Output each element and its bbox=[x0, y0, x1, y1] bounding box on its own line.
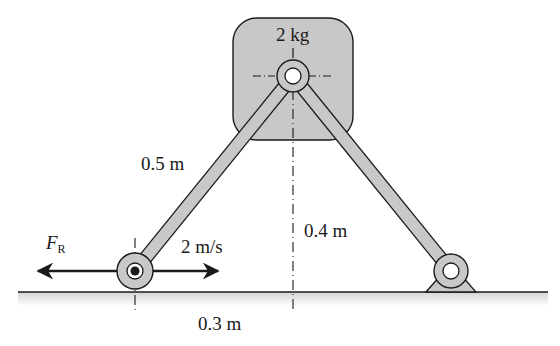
bar-length-label: 0.5 m bbox=[141, 153, 184, 175]
force-subscript: R bbox=[58, 242, 66, 256]
velocity-label: 2 m/s bbox=[181, 236, 223, 258]
top-pin-joint bbox=[277, 60, 309, 92]
mechanism-diagram bbox=[0, 0, 560, 346]
height-label: 0.4 m bbox=[304, 220, 347, 242]
force-symbol: F bbox=[46, 232, 58, 253]
ground bbox=[18, 292, 548, 306]
force-label: FR bbox=[46, 232, 66, 257]
horizontal-offset-label: 0.3 m bbox=[198, 313, 241, 335]
mass-label: 2 kg bbox=[276, 24, 309, 46]
slider-collar bbox=[117, 253, 153, 289]
